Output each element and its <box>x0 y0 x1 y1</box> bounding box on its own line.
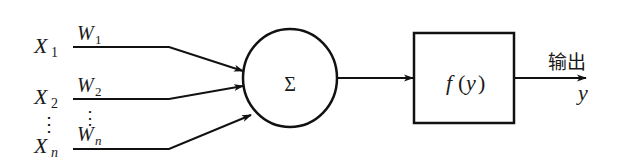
weight-2-sub: 2 <box>95 84 102 99</box>
neuron-diagram: X 1 W 1 X 2 W 2 ⋮ ⋮ X n W n Σ f ( y ) 输出… <box>0 0 631 161</box>
input-1-sub: 1 <box>51 45 58 60</box>
input-1-var: X <box>33 33 49 58</box>
activation-block: f ( y ) <box>414 33 514 123</box>
activation-close-paren: ) <box>478 70 485 95</box>
input-n: X n W n <box>33 115 251 160</box>
weight-n-var: W <box>77 123 96 145</box>
activation-arg: y <box>464 70 476 95</box>
input-n-sub: n <box>51 145 58 160</box>
input-ellipsis: ⋮ <box>39 113 59 135</box>
weight-1-var: W <box>77 22 96 44</box>
sigma-symbol: Σ <box>284 73 296 95</box>
output-var: y <box>576 80 588 105</box>
input-2-sub: 2 <box>51 96 58 111</box>
activation-open-paren: ( <box>458 70 465 95</box>
input-n-var: X <box>33 133 49 158</box>
weight-1-sub: 1 <box>95 32 102 47</box>
weight-1-line <box>73 47 243 71</box>
input-2-var: X <box>33 84 49 109</box>
output-label: 输出 <box>548 51 586 73</box>
input-1: X 1 W 1 <box>33 22 243 71</box>
summation-node: Σ <box>243 29 337 127</box>
weight-2-var: W <box>77 74 96 96</box>
activation-f: f <box>446 70 455 95</box>
input-2: X 2 W 2 <box>33 74 243 111</box>
weight-n-sub: n <box>95 133 102 148</box>
